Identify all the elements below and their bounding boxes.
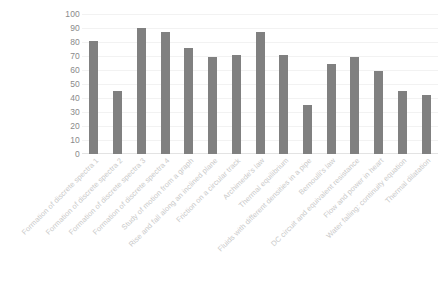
bar-slot: [82, 14, 106, 154]
bar[interactable]: [398, 91, 407, 154]
x-axis-category-labels: Formation of discrete spectra 1Formation…: [82, 156, 438, 276]
y-tick-label: 30: [56, 108, 80, 116]
y-tick-label: 100: [56, 10, 80, 18]
bar[interactable]: [422, 95, 431, 154]
bar[interactable]: [137, 28, 146, 154]
y-tick-label: 60: [56, 66, 80, 74]
bar-slot: [367, 14, 391, 154]
bar-slot: [224, 14, 248, 154]
bar-slot: [272, 14, 296, 154]
y-tick-label: 10: [56, 136, 80, 144]
bar[interactable]: [303, 105, 312, 154]
y-tick-label: 40: [56, 94, 80, 102]
bar-slot: [129, 14, 153, 154]
bar[interactable]: [256, 32, 265, 154]
y-tick-label: 80: [56, 38, 80, 46]
y-tick-label: 0: [56, 150, 80, 158]
y-axis: 1009080706050403020100: [56, 14, 80, 154]
bar-series: [82, 14, 438, 154]
bar[interactable]: [279, 55, 288, 154]
bar-slot: [153, 14, 177, 154]
bar-slot: [106, 14, 130, 154]
bar[interactable]: [327, 64, 336, 154]
plot-area: [82, 14, 438, 154]
bar-slot: [319, 14, 343, 154]
y-tick-label: 90: [56, 24, 80, 32]
bar-slot: [343, 14, 367, 154]
bar[interactable]: [232, 55, 241, 154]
bar[interactable]: [184, 48, 193, 154]
bar[interactable]: [208, 57, 217, 154]
category-label: Rise and fall along an inclined plane: [126, 156, 219, 249]
y-tick-label: 50: [56, 80, 80, 88]
bar[interactable]: [374, 71, 383, 154]
bar-slot: [296, 14, 320, 154]
y-tick-label: 20: [56, 122, 80, 130]
bar[interactable]: [113, 91, 122, 154]
bar-slot: [248, 14, 272, 154]
bar-slot: [201, 14, 225, 154]
bar-slot: [414, 14, 438, 154]
bar-slot: [177, 14, 201, 154]
bar[interactable]: [161, 32, 170, 154]
bar[interactable]: [350, 57, 359, 154]
y-tick-label: 70: [56, 52, 80, 60]
category-label: Thermal dilatation: [383, 156, 432, 205]
bar[interactable]: [89, 41, 98, 154]
bar-slot: [391, 14, 415, 154]
bar-chart-figure: 1009080706050403020100 Formation of disc…: [0, 0, 446, 289]
